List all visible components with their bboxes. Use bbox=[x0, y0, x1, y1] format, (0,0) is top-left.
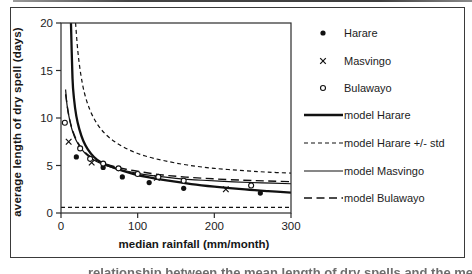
legend-line-icon bbox=[303, 109, 344, 121]
x-tick-label: 0 bbox=[58, 220, 64, 232]
cropped-caption: relationship between the mean length of … bbox=[88, 263, 472, 274]
y-tick-label: 10 bbox=[40, 112, 53, 124]
legend-label: model Harare +/- std bbox=[344, 137, 445, 149]
x-icon bbox=[303, 55, 344, 67]
legend-label: model Bulawayo bbox=[344, 192, 425, 204]
figure-scan: 010020030005101520 average length of dry… bbox=[0, 0, 472, 274]
y-tick-label: 15 bbox=[40, 65, 53, 77]
legend-line-icon bbox=[303, 192, 344, 204]
legend-item-harare: Harare bbox=[303, 26, 378, 40]
x-axis-title: median rainfall (mm/month) bbox=[84, 238, 304, 250]
x-tick-label: 100 bbox=[128, 220, 147, 232]
y-tick-label: 20 bbox=[40, 17, 53, 29]
y-tick-label: 5 bbox=[47, 160, 53, 172]
x-tick-label: 200 bbox=[205, 220, 224, 232]
legend-label: Harare bbox=[344, 27, 378, 39]
x-tick-label: 300 bbox=[281, 220, 300, 232]
legend-item-model-bulawayo: model Bulawayo bbox=[303, 191, 425, 205]
plot-frame bbox=[61, 23, 291, 213]
y-tick-label: 0 bbox=[47, 207, 53, 219]
open-circle-icon bbox=[303, 82, 344, 94]
legend-label: model Harare bbox=[344, 109, 411, 121]
cropped-caption-text: relationship between the mean length of … bbox=[88, 263, 472, 274]
legend-item-bulawayo: Bulawayo bbox=[303, 81, 392, 95]
series-model-masvingo bbox=[66, 90, 291, 184]
legend-item-model-masvingo: model Masvingo bbox=[303, 164, 424, 178]
filled-circle-icon bbox=[303, 27, 344, 39]
legend: HarareMasvingoBulawayomodel Hararemodel … bbox=[303, 19, 471, 215]
y-axis-title: average length of dry spell (days) bbox=[11, 22, 27, 222]
legend-label: Bulawayo bbox=[344, 82, 392, 94]
legend-label: model Masvingo bbox=[344, 165, 424, 177]
legend-line-icon bbox=[303, 165, 344, 177]
series-model-harare-std bbox=[61, 23, 291, 207]
series-model-bulawayo bbox=[66, 94, 291, 181]
legend-line-icon bbox=[303, 137, 344, 149]
legend-item-model-harare-std: model Harare +/- std bbox=[303, 136, 445, 150]
legend-label: Masvingo bbox=[344, 55, 391, 67]
legend-item-masvingo: Masvingo bbox=[303, 54, 391, 68]
legend-item-model-harare: model Harare bbox=[303, 108, 411, 122]
